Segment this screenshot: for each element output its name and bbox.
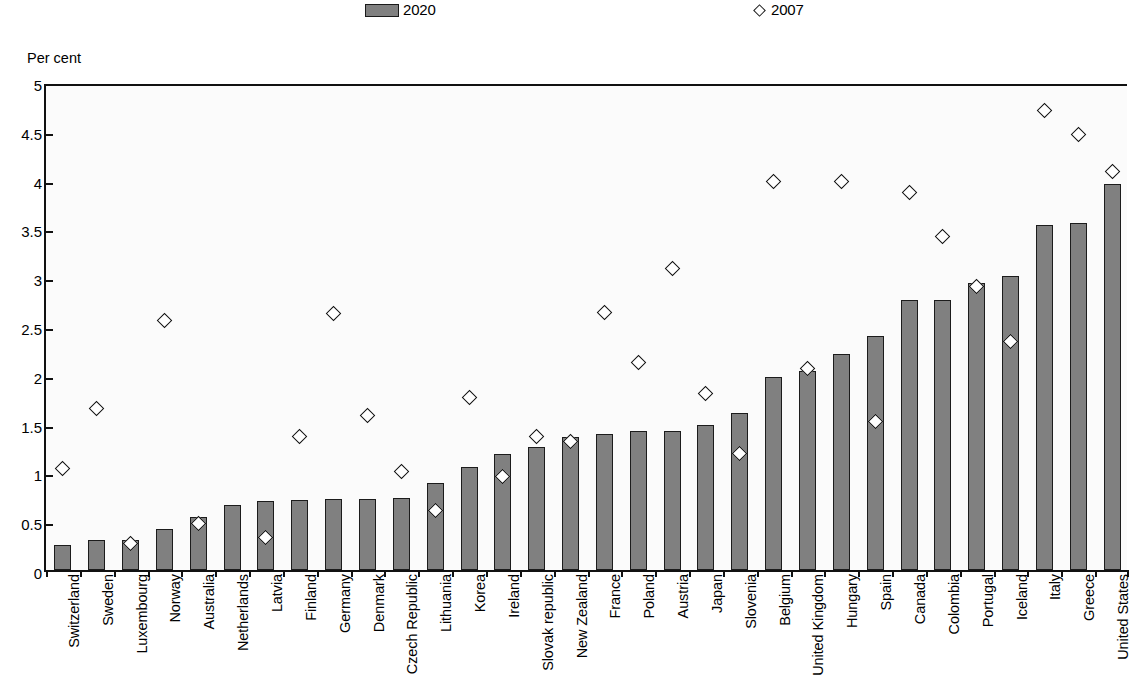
y-axis-tick-mark <box>46 183 53 185</box>
x-axis-label-austria: Austria <box>675 574 691 618</box>
x-axis-label-belgium: Belgium <box>777 574 793 626</box>
y-axis-tick-mark <box>46 524 53 526</box>
y-axis-tick-label: 1.5 <box>2 419 42 436</box>
y-axis-tick-mark <box>46 329 53 331</box>
marker-austria <box>664 261 680 277</box>
x-axis-label-iceland: Iceland <box>1014 574 1030 620</box>
y-axis-tick-label: 3 <box>2 272 42 289</box>
y-axis-tick-label: 5 <box>2 77 42 94</box>
marker-france <box>597 305 613 321</box>
marker-japan <box>698 386 714 402</box>
x-axis-label-ireland: Ireland <box>506 574 522 618</box>
marker-hungary <box>834 174 850 190</box>
x-axis-label-slovak-republic: Slovak republic <box>540 574 556 671</box>
bar-poland <box>630 431 647 570</box>
bar-lithuania <box>427 483 444 570</box>
marker-norway <box>157 312 173 328</box>
bar-spain <box>867 336 884 570</box>
bar-netherlands <box>224 505 241 570</box>
x-axis-label-japan: Japan <box>709 574 725 613</box>
bar-austria <box>664 431 681 570</box>
legend-diamond-marker-icon <box>753 4 766 17</box>
bar-japan <box>697 425 714 570</box>
y-axis-tick-label: 0 <box>2 565 42 582</box>
bar-italy <box>1036 225 1053 571</box>
marker-canada <box>901 185 917 201</box>
x-axis-label-norway: Norway <box>167 574 183 623</box>
marker-united-states <box>1104 164 1120 180</box>
bar-korea <box>461 467 478 570</box>
marker-korea <box>461 390 477 406</box>
legend-item-2007: 2007 <box>755 2 804 18</box>
marker-belgium <box>766 174 782 190</box>
x-axis-label-luxembourg: Luxembourg <box>134 574 150 654</box>
y-axis-tick-mark <box>46 231 53 233</box>
bar-denmark <box>359 499 376 570</box>
bar-norway <box>156 529 173 570</box>
marker-slovak-republic <box>529 429 545 445</box>
bar-united-kingdom <box>799 371 816 570</box>
x-axis-label-poland: Poland <box>641 574 657 619</box>
legend-item-2020: 2020 <box>365 2 436 18</box>
y-axis-tick-mark <box>46 378 53 380</box>
x-axis-label-sweden: Sweden <box>100 574 116 626</box>
x-axis-label-germany: Germany <box>337 574 353 633</box>
marker-finland <box>292 429 308 445</box>
y-axis-tick-mark <box>46 280 53 282</box>
x-axis-label-france: France <box>607 574 623 619</box>
marker-sweden <box>89 400 105 416</box>
bar-czech-republic <box>393 498 410 570</box>
y-axis-tick-label: 2.5 <box>2 321 42 338</box>
y-axis-unit-caption: Per cent <box>27 50 81 66</box>
bar-switzerland <box>54 545 71 570</box>
marker-colombia <box>935 229 951 245</box>
marker-germany <box>326 306 342 322</box>
y-axis-tick-label: 2 <box>2 370 42 387</box>
y-axis-tick-mark <box>46 475 53 477</box>
bar-greece <box>1070 223 1087 570</box>
bar-sweden <box>88 540 105 570</box>
marker-poland <box>630 354 646 370</box>
bar-slovak-republic <box>528 447 545 570</box>
y-axis-tick-label: 4 <box>2 175 42 192</box>
bar-slovenia <box>731 413 748 570</box>
y-axis-tick-mark <box>46 427 53 429</box>
x-axis-label-finland: Finland <box>303 574 319 621</box>
legend-label-2007: 2007 <box>771 2 804 18</box>
marker-italy <box>1037 103 1053 119</box>
legend-label-2020: 2020 <box>403 2 436 18</box>
x-axis-label-united-kingdom: United Kingdom <box>810 574 826 676</box>
x-axis-label-switzerland: Switzerland <box>66 574 82 648</box>
x-axis-label-denmark: Denmark <box>371 574 387 632</box>
x-axis-label-portugal: Portugal <box>980 574 996 627</box>
x-axis-label-latvia: Latvia <box>269 574 285 612</box>
x-axis-label-colombia: Colombia <box>946 574 962 634</box>
bar-finland <box>291 500 308 570</box>
marker-czech-republic <box>394 464 410 480</box>
bar-colombia <box>934 300 951 570</box>
x-axis-label-australia: Australia <box>201 574 217 630</box>
plot-inner: 00.511.522.533.544.55 <box>46 86 1127 570</box>
marker-switzerland <box>55 461 71 477</box>
legend-bar-swatch-icon <box>365 4 399 17</box>
x-axis-label-netherlands: Netherlands <box>235 574 251 651</box>
x-axis-label-slovenia: Slovenia <box>743 574 759 629</box>
bar-hungary <box>833 354 850 570</box>
bar-france <box>596 434 613 570</box>
y-axis-tick-label: 1 <box>2 467 42 484</box>
bar-belgium <box>765 377 782 570</box>
x-axis-label-hungary: Hungary <box>844 574 860 628</box>
bar-canada <box>901 300 918 570</box>
x-axis-label-lithuania: Lithuania <box>438 574 454 632</box>
y-axis-tick-label: 4.5 <box>2 126 42 143</box>
y-axis-tick-label: 0.5 <box>2 516 42 533</box>
marker-denmark <box>360 408 376 424</box>
plot-area: 00.511.522.533.544.55 <box>44 84 1127 572</box>
x-axis-label-new-zealand: New Zealand <box>574 574 590 658</box>
bar-portugal <box>968 283 985 570</box>
x-axis-label-korea: Korea <box>472 574 488 612</box>
x-axis-label-czech-republic: Czech Republic <box>404 574 420 674</box>
y-axis-tick-mark <box>46 134 53 136</box>
bar-iceland <box>1002 276 1019 570</box>
